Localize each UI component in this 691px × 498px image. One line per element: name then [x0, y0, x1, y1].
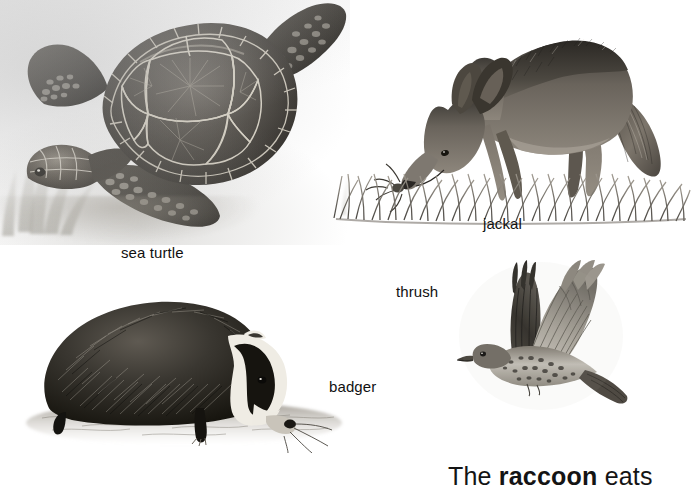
sentence-line: The raccoon eats — [448, 462, 653, 491]
thrush-figure: thrush — [455, 258, 630, 433]
badger-eye — [258, 377, 267, 384]
jackal-illustration — [330, 0, 691, 232]
jackal-label: jackal — [483, 215, 522, 232]
thrush-label: thrush — [396, 283, 438, 300]
badger-illustration — [22, 288, 352, 453]
badger-figure: badger — [22, 288, 352, 453]
sea-floor-shadow — [0, 196, 300, 242]
badger-label: badger — [329, 378, 376, 395]
worksheet-page: sea turtle — [0, 0, 691, 498]
sentence-trail: eats — [597, 462, 652, 490]
sentence-lead: The — [448, 462, 499, 490]
sea-turtle-label: sea turtle — [121, 244, 184, 261]
jackal-figure: jackal — [330, 0, 691, 232]
thrush-illustration — [455, 258, 630, 433]
sea-turtle-figure: sea turtle — [0, 0, 350, 245]
sentence-emphasis: raccoon — [499, 462, 598, 490]
